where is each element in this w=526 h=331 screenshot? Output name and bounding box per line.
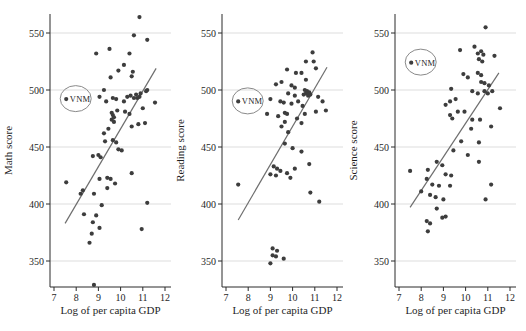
x-tick-label: 11 <box>483 292 493 303</box>
data-point <box>103 139 107 143</box>
data-point <box>90 232 94 236</box>
data-point <box>477 160 481 164</box>
data-point <box>444 103 448 107</box>
x-tick-label: 10 <box>461 292 471 303</box>
data-point <box>486 91 490 95</box>
data-point <box>428 221 432 225</box>
data-point <box>451 148 455 152</box>
y-tick-label: 400 <box>29 199 44 210</box>
data-point <box>461 72 465 76</box>
data-point <box>295 116 299 120</box>
y-tick-label: 450 <box>29 142 44 153</box>
data-point <box>131 70 135 74</box>
data-point <box>91 154 95 158</box>
data-point <box>448 99 452 103</box>
data-point <box>419 189 423 193</box>
data-point <box>308 191 312 195</box>
data-point <box>268 172 272 176</box>
data-point <box>278 169 282 173</box>
y-tick-label: 500 <box>201 85 216 96</box>
data-point <box>435 206 439 210</box>
data-point <box>138 91 142 95</box>
data-point <box>448 184 452 188</box>
data-point <box>274 173 278 177</box>
data-point <box>477 140 481 144</box>
data-point <box>116 69 120 73</box>
data-point <box>466 153 470 157</box>
data-point <box>283 120 287 124</box>
data-point <box>409 61 413 65</box>
panel-science-score: 350400450500550789101112Science scoreLog… <box>347 14 516 316</box>
data-point <box>109 75 113 79</box>
data-point <box>437 184 441 188</box>
data-point <box>97 95 101 99</box>
data-point <box>265 112 269 116</box>
data-point <box>483 25 487 29</box>
data-point <box>102 88 106 92</box>
data-point <box>276 114 280 118</box>
data-point <box>102 131 106 135</box>
data-point <box>293 94 297 98</box>
x-tick-label: 8 <box>419 292 424 303</box>
y-tick-label: 550 <box>374 28 389 39</box>
pisa-vs-gdp-panels: 350400450500550789101112Math scoreLog of… <box>0 0 526 331</box>
x-tick-label: 9 <box>96 292 101 303</box>
panel-math-score: 350400450500550789101112Math scoreLog of… <box>2 14 171 316</box>
data-point <box>122 99 126 103</box>
y-tick-label: 400 <box>374 199 389 210</box>
data-point <box>282 100 286 104</box>
x-tick-label: 11 <box>138 292 148 303</box>
data-point <box>94 213 98 217</box>
x-tick-label: 7 <box>397 292 402 303</box>
data-point <box>285 67 289 71</box>
data-point <box>435 160 439 164</box>
data-point <box>481 53 485 57</box>
data-point <box>289 102 293 106</box>
y-tick-label: 500 <box>374 85 389 96</box>
data-point <box>82 212 86 216</box>
x-tick-label: 10 <box>116 292 126 303</box>
data-point <box>480 59 484 63</box>
data-point <box>107 47 111 51</box>
data-point <box>92 192 96 196</box>
data-point <box>123 110 127 114</box>
data-point <box>302 92 306 96</box>
data-point <box>113 181 117 185</box>
data-point <box>141 106 145 110</box>
fit-line <box>65 68 156 223</box>
data-point <box>428 193 432 197</box>
vnm-label: VNM <box>415 58 436 68</box>
data-point <box>282 257 286 261</box>
vnm-label: VNM <box>242 96 263 106</box>
data-point <box>426 168 430 172</box>
y-tick-label: 450 <box>374 142 389 153</box>
data-point <box>300 104 304 108</box>
data-point <box>450 116 454 120</box>
data-point <box>299 121 303 125</box>
data-point <box>289 83 293 87</box>
data-point <box>440 163 444 167</box>
y-tick-label: 500 <box>29 85 44 96</box>
data-point <box>472 45 476 49</box>
data-point <box>236 183 240 187</box>
scatter-figure: 350400450500550789101112Math scoreLog of… <box>0 0 526 331</box>
data-point <box>449 87 453 91</box>
data-point <box>130 171 134 175</box>
x-tick-label: 12 <box>332 292 342 303</box>
data-point <box>490 89 494 93</box>
data-point <box>469 127 473 131</box>
data-point <box>308 92 312 96</box>
data-point <box>487 83 491 87</box>
data-point <box>444 214 448 218</box>
x-tick-label: 10 <box>288 292 298 303</box>
data-point <box>489 183 493 187</box>
x-tick-label: 7 <box>52 292 57 303</box>
data-point <box>99 155 103 159</box>
data-point <box>283 141 287 145</box>
data-point <box>81 188 85 192</box>
data-point <box>286 130 290 134</box>
data-point <box>122 63 126 67</box>
data-point <box>145 88 149 92</box>
data-point <box>479 73 483 77</box>
x-tick-label: 12 <box>160 292 170 303</box>
